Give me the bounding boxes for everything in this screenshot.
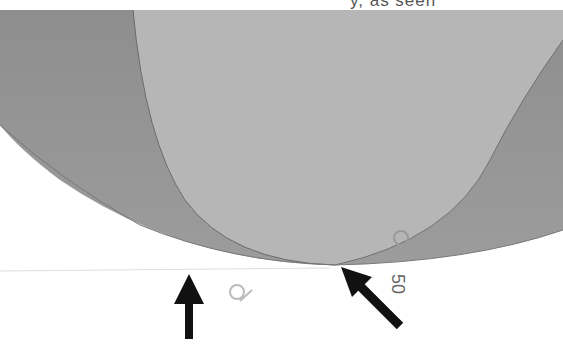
- figure-illustration: [0, 0, 563, 346]
- scribble-glyph: [230, 285, 252, 301]
- arrow-up-icon: [174, 274, 204, 339]
- figure-label-number: 50: [387, 274, 408, 294]
